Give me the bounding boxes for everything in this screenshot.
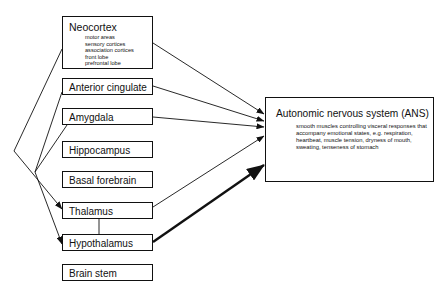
basal-forebrain-label: Basal forebrain xyxy=(69,174,136,185)
neocortex-item: motor areas xyxy=(85,34,134,41)
neocortex-item: association cortices xyxy=(85,47,134,54)
neocortex-item: prefrontal lobe xyxy=(85,60,134,67)
neocortex-item: front lobe xyxy=(85,54,134,61)
ans-box: Autonomic nervous system (ANS) smooth mu… xyxy=(265,97,434,182)
brain-stem-box: Brain stem xyxy=(62,264,153,281)
thalamus-box: Thalamus xyxy=(62,202,153,219)
neocortex-item-list: motor areas sensory cortices association… xyxy=(85,34,134,67)
anterior-cingulate-label: Anterior cingulate xyxy=(69,81,147,92)
hippocampus-label: Hippocampus xyxy=(69,144,130,155)
amygdala-label: Amygdala xyxy=(69,111,113,122)
thalamus-label: Thalamus xyxy=(69,205,113,216)
ans-title: Autonomic nervous system (ANS) xyxy=(276,108,429,119)
arrow-hypothalamus-to-ans-thick xyxy=(153,165,264,242)
basal-forebrain-box: Basal forebrain xyxy=(62,171,153,188)
amygdala-box: Amygdala xyxy=(62,108,153,125)
line-neocortex-to-thalamus xyxy=(14,49,62,209)
hypothalamus-label: Hypothalamus xyxy=(69,237,133,248)
brain-stem-label: Brain stem xyxy=(69,267,117,278)
arrow-amygdala-to-ans xyxy=(153,117,264,127)
hippocampus-box: Hippocampus xyxy=(62,141,153,158)
neocortex-box: Neocortex motor areas sensory cortices a… xyxy=(62,16,153,69)
hypothalamus-box: Hypothalamus xyxy=(62,234,153,251)
neocortex-title: Neocortex xyxy=(69,21,117,33)
line-anterior-cingulate-to-hypothalamus xyxy=(35,92,62,244)
ans-description: smooth muscles controlling visceral resp… xyxy=(296,123,432,151)
neocortex-item: sensory cortices xyxy=(85,41,134,48)
anterior-cingulate-box: Anterior cingulate xyxy=(62,78,153,95)
arrow-thalamus-to-ans xyxy=(153,136,264,207)
